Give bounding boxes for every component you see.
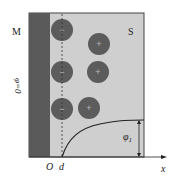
solution-label: S: [128, 26, 134, 37]
phi-zero-label: φ=0: [13, 78, 23, 94]
metal-region: [29, 13, 50, 157]
metal-label: M: [12, 26, 21, 37]
ion-sign: +: [86, 103, 91, 113]
d-label: d: [59, 161, 65, 172]
ion-sign: +: [95, 67, 100, 77]
ion-sign: −: [59, 104, 64, 114]
double-layer-diagram: − + − + − + M S φ=0 O d x φ1: [0, 0, 181, 176]
origin-label: O: [46, 161, 53, 172]
ion-sign: +: [96, 39, 101, 49]
x-axis-label: x: [160, 163, 166, 174]
arrow-right-icon: [161, 155, 167, 159]
